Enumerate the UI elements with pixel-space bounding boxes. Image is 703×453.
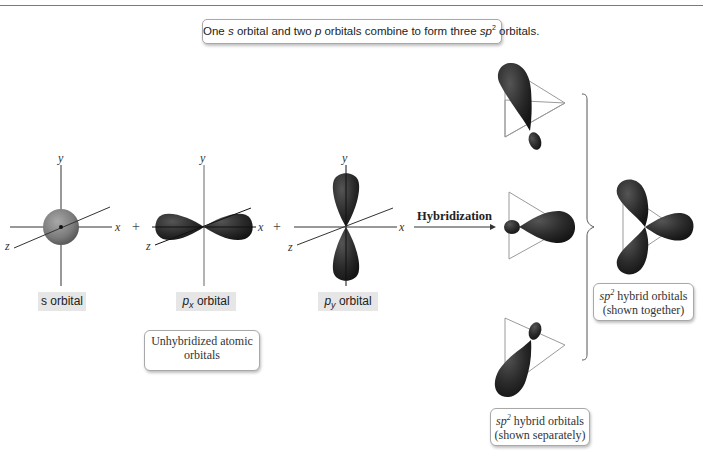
x-axis-label: x (398, 220, 405, 234)
plus-sign: + (273, 219, 281, 234)
px-orbital-label: px orbital (176, 292, 236, 311)
caption-text: hybrid orbitals (511, 414, 584, 428)
sp2-small-lobe (504, 220, 520, 234)
sp2-small-lobe (526, 130, 543, 151)
hybridization-arrow: Hybridization (414, 209, 496, 230)
sp2-orbital-middle (504, 192, 575, 259)
sp2-large-lobe (519, 211, 575, 243)
hybridization-diagram: y x z + y x z + y x z Hybridization (0, 0, 703, 453)
hybridization-label: Hybridization (417, 209, 492, 223)
label-text: orbital (194, 294, 230, 308)
x-axis-label: x (257, 220, 264, 234)
together-caption: sp2 hybrid orbitals (shown together) (593, 283, 694, 321)
label-text: orbital (336, 294, 372, 308)
py-orbital-figure: y x z (287, 151, 405, 286)
sp2-orbital-bottom (495, 318, 565, 397)
y-axis-label: y (57, 151, 64, 165)
sp2-orbitals-together (617, 180, 694, 275)
caption-line: Unhybridized atomic (145, 334, 259, 348)
sp2-lobe-lower (617, 227, 649, 274)
sp2-lobe-right (645, 213, 694, 241)
brace (582, 94, 594, 360)
z-axis-label: z (145, 239, 151, 253)
caption-italic: sp (600, 289, 611, 303)
nucleus (59, 225, 63, 229)
caption-line: sp2 hybrid orbitals (594, 286, 693, 303)
sp2-large-lobe (498, 63, 532, 131)
caption-line: sp2 hybrid orbitals (491, 411, 589, 428)
separately-caption: sp2 hybrid orbitals (shown separately) (490, 408, 590, 446)
caption-line: (shown together) (594, 303, 693, 317)
sp2-large-lobe (495, 340, 531, 397)
sp2-small-lobe (526, 320, 543, 341)
y-axis-label: y (199, 151, 206, 165)
z-axis-label: z (4, 239, 10, 253)
caption-italic: sp (496, 414, 507, 428)
caption-line: orbitals (145, 348, 259, 362)
sp2-orbital-top (498, 63, 565, 152)
s-orbital-label: s orbital (38, 292, 86, 311)
py-orbital-label: py orbital (318, 292, 378, 311)
arrow-head-icon (490, 224, 496, 230)
px-orbital-figure: y x z (145, 151, 264, 286)
plus-sign: + (132, 219, 140, 234)
sp2-lobe-upper (617, 180, 649, 227)
s-orbital-figure: y x z (4, 151, 121, 286)
label-text: orbital (47, 294, 83, 308)
z-axis-label: z (287, 240, 293, 254)
unhybridized-caption: Unhybridized atomic orbitals (144, 330, 260, 371)
caption-line: (shown separately) (491, 428, 589, 442)
x-axis-label: x (114, 220, 121, 234)
caption-text: hybrid orbitals (614, 289, 687, 303)
y-axis-label: y (341, 151, 348, 165)
